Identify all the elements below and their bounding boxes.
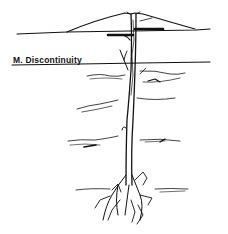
diagram-drawing [0,0,228,234]
root-zone [95,172,152,224]
magma-conduit [120,12,140,185]
discontinuity-label: M. Discontinuity [13,55,82,65]
volcano-conduit-diagram: M. Discontinuity [0,0,228,234]
strata-lines [68,68,188,192]
surface-line [17,29,210,34]
